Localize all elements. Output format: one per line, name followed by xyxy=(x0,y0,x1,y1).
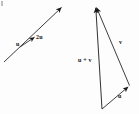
vector-u-plus-v-line xyxy=(96,8,102,109)
label-vector-u-right: u xyxy=(118,93,122,99)
vector-addition-panel xyxy=(96,8,130,109)
vector-diagram-figure: u 2u u + v v u xyxy=(0,0,139,114)
vector-u-midarrow xyxy=(20,37,35,47)
scalar-multiple-panel xyxy=(4,8,62,63)
vector-u-line xyxy=(102,87,128,109)
label-vector-v: v xyxy=(119,39,122,45)
label-vector-u-plus-v: u + v xyxy=(78,57,92,63)
label-vector-u-scalar: u xyxy=(16,41,20,47)
label-vector-2u: 2u xyxy=(36,34,43,40)
vector-2u-line xyxy=(4,8,62,63)
vector-v-line xyxy=(97,8,130,86)
